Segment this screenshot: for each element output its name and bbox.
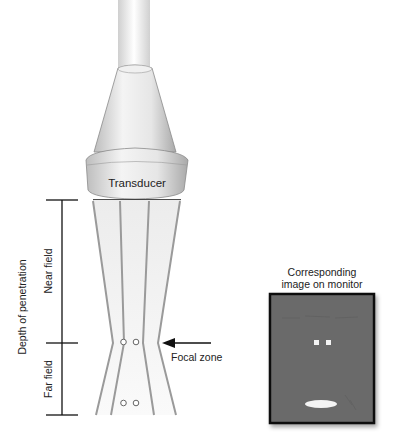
- focal-reflector-right: [133, 339, 139, 345]
- transducer-probe: Transducer: [86, 65, 188, 199]
- monitor-image: [270, 294, 374, 423]
- monitor-echo-dot-left: [314, 340, 319, 345]
- focal-zone-arrow: [162, 338, 211, 348]
- transducer-label: Transducer: [108, 177, 166, 189]
- monitor-echo-dot-right: [326, 340, 331, 345]
- monitor-caption-line1: Corresponding: [288, 266, 357, 278]
- far-reflector-left: [121, 400, 127, 406]
- depth-of-penetration-label: Depth of penetration: [16, 259, 28, 354]
- near-field-label: Near field: [42, 248, 54, 293]
- far-reflector-right: [133, 400, 139, 406]
- transducer-cable: [118, 0, 150, 72]
- monitor-echo-smear: [305, 400, 337, 408]
- focal-reflector-left: [121, 339, 127, 345]
- ultrasound-beam-diagram: Transducer Depth of penetration Near fie…: [0, 0, 400, 447]
- monitor-caption-line2: image on monitor: [281, 278, 363, 290]
- far-field-label: Far field: [42, 360, 54, 398]
- focal-zone-label: Focal zone: [171, 351, 223, 363]
